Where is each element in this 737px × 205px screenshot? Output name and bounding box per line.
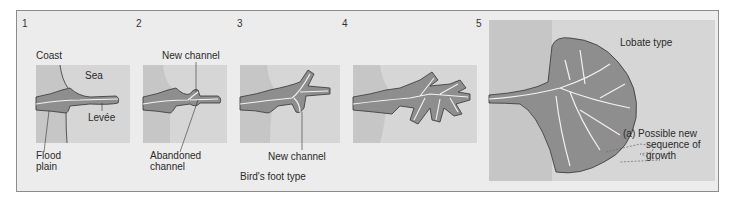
levee-label: Levée bbox=[88, 112, 115, 123]
abandoned-channel-label-line2: channel bbox=[150, 161, 185, 172]
new-channel-label-3: New channel bbox=[268, 151, 326, 162]
panel-5-number: 5 bbox=[476, 18, 482, 29]
panel-4-illustration bbox=[353, 65, 477, 143]
lobate-type-label: Lobate type bbox=[620, 37, 672, 48]
panel-3-number: 3 bbox=[237, 18, 243, 29]
panel-1-number: 1 bbox=[22, 18, 28, 29]
possible-growth-label-line2: sequence of bbox=[646, 139, 701, 150]
panel-1-illustration bbox=[36, 65, 130, 152]
panel-5-illustration bbox=[489, 20, 715, 181]
new-channel-label: New channel bbox=[162, 50, 220, 61]
flood-plain-label-line2: plain bbox=[36, 161, 57, 172]
panel-2-number: 2 bbox=[136, 18, 142, 29]
panel-2-illustration bbox=[143, 62, 227, 152]
delta-diagram bbox=[0, 0, 737, 205]
possible-growth-label-line1: (a) Possible new bbox=[623, 128, 697, 139]
abandoned-channel-label-line1: Abandoned bbox=[150, 150, 201, 161]
sea-label: Sea bbox=[85, 70, 103, 81]
flood-plain-label-line1: Flood bbox=[36, 150, 61, 161]
birds-foot-caption: Bird's foot type bbox=[240, 171, 306, 182]
possible-growth-label-line3: growth bbox=[646, 150, 676, 161]
panel-4-number: 4 bbox=[342, 18, 348, 29]
panel-3-illustration bbox=[240, 65, 340, 150]
coast-label: Coast bbox=[36, 50, 62, 61]
